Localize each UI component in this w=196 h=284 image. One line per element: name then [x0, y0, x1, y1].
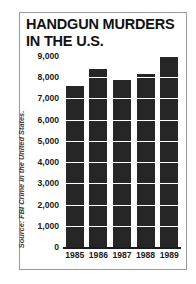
x-tick-label: 1985 — [62, 250, 88, 260]
y-tick-label: 1,000 — [37, 221, 59, 231]
y-tick-label: 7,000 — [37, 93, 59, 103]
bar — [66, 86, 84, 247]
y-tick-label: 3,000 — [37, 178, 59, 188]
y-tick-label: 9,000 — [37, 51, 59, 61]
gridline — [63, 56, 181, 57]
gridline — [63, 205, 181, 206]
gridline — [63, 98, 181, 99]
gridline — [63, 162, 181, 163]
source-caption: Source: FBI Crime in the United States. — [17, 105, 26, 255]
y-tick-label: 2,000 — [37, 200, 59, 210]
y-tick-label: 6,000 — [37, 115, 59, 125]
x-tick-label: 1988 — [133, 250, 159, 260]
bar — [137, 74, 155, 247]
gridline — [63, 141, 181, 142]
gridline — [63, 77, 181, 78]
gridline — [63, 183, 181, 184]
plot-area: 01,0002,0003,0004,0005,0006,0007,0008,00… — [63, 56, 181, 247]
x-tick-label: 1989 — [156, 250, 182, 260]
bar — [113, 80, 131, 247]
chart-figure: HANDGUN MURDERS IN THE U.S. Source: FBI … — [0, 0, 196, 284]
chart-title: HANDGUN MURDERS IN THE U.S. — [26, 16, 184, 49]
gridline — [63, 226, 181, 227]
y-tick-label: 0 — [54, 242, 59, 252]
y-tick-label: 5,000 — [37, 136, 59, 146]
bar — [160, 56, 178, 247]
gridline — [63, 120, 181, 121]
y-tick-label: 4,000 — [37, 157, 59, 167]
y-tick-label: 8,000 — [37, 72, 59, 82]
gridline — [63, 247, 181, 249]
bar — [89, 69, 107, 247]
x-tick-label: 1987 — [109, 250, 135, 260]
x-tick-label: 1986 — [85, 250, 111, 260]
